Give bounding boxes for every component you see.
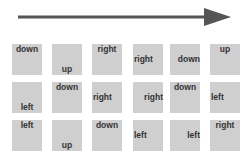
word-box: down bbox=[170, 44, 200, 75]
word-box: right bbox=[133, 44, 163, 75]
word-label: down bbox=[12, 45, 42, 54]
word-box: down bbox=[92, 120, 122, 151]
word-label: right bbox=[93, 93, 112, 102]
word-box: left bbox=[170, 120, 200, 151]
word-box: down bbox=[52, 82, 82, 113]
word-label: left bbox=[187, 131, 200, 140]
word-box: down bbox=[12, 44, 42, 75]
word-label: down bbox=[170, 83, 200, 92]
word-box: up bbox=[210, 44, 240, 75]
word-box: left bbox=[12, 120, 42, 151]
word-label: down bbox=[52, 83, 82, 92]
word-box: right bbox=[133, 82, 163, 113]
word-label: down bbox=[92, 121, 122, 130]
word-label: right bbox=[92, 45, 122, 54]
word-box: left bbox=[210, 82, 240, 113]
word-box: right bbox=[92, 44, 122, 75]
word-box: right bbox=[92, 82, 122, 113]
word-label: right bbox=[144, 93, 163, 102]
word-box: left bbox=[12, 82, 42, 113]
word-box: up bbox=[52, 44, 82, 75]
word-label: left bbox=[12, 103, 42, 112]
word-label: up bbox=[52, 65, 82, 74]
word-label: right bbox=[210, 121, 240, 130]
word-label: down bbox=[178, 55, 200, 64]
word-label: left bbox=[211, 93, 224, 102]
word-label: right bbox=[134, 55, 153, 64]
word-label: up bbox=[210, 45, 240, 54]
word-box: right bbox=[210, 120, 240, 151]
word-box: down bbox=[170, 82, 200, 113]
word-label: up bbox=[52, 141, 82, 150]
word-box: up bbox=[52, 120, 82, 151]
word-box: left bbox=[133, 120, 163, 151]
word-label: left bbox=[12, 121, 42, 130]
right-arrow-icon bbox=[0, 0, 249, 34]
word-label: left bbox=[134, 131, 147, 140]
